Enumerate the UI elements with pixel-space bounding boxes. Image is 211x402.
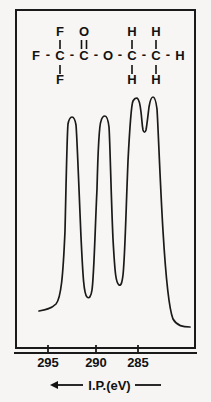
atom-c-carbonyl: C xyxy=(79,48,89,63)
xps-spectrum-figure: F - C - C - O - C - C - H F O H H F H H xyxy=(0,0,211,402)
atom-h-ch3-bottom: H xyxy=(151,72,160,87)
atom-h-right: H xyxy=(175,48,184,63)
structure-top-substituents: F O H H xyxy=(56,24,161,39)
x-axis-tick-label-285: 285 xyxy=(121,355,155,370)
atom-c-ch2: C xyxy=(127,48,137,63)
x-axis-tick-label-295: 295 xyxy=(31,355,65,370)
atom-c-ch3: C xyxy=(151,48,161,63)
x-axis-ticks xyxy=(48,345,138,352)
x-axis-title: I.P.(eV) xyxy=(84,378,134,393)
molecular-structure-diagram: F - C - C - O - C - C - H F O H H F H H xyxy=(15,9,196,99)
left-arrow-icon xyxy=(50,378,84,392)
structure-bottom-substituents: F H H xyxy=(56,72,161,87)
bond-dash-6: - xyxy=(166,47,170,62)
structure-backbone: F - C - C - O - C - C - H xyxy=(32,47,185,63)
bond-dash-4: - xyxy=(118,47,122,62)
x-axis-title-row: I.P.(eV) xyxy=(0,375,211,395)
atom-h-ch3-top: H xyxy=(151,24,160,39)
atom-f-top: F xyxy=(56,24,64,39)
bond-dash-1: - xyxy=(46,47,50,62)
bond-dash-2: - xyxy=(70,47,74,62)
atom-h-ch2-bottom: H xyxy=(127,72,136,87)
atom-f-bottom: F xyxy=(56,72,64,87)
right-rule-icon xyxy=(135,378,161,392)
atom-o-ester: O xyxy=(103,48,113,63)
x-axis-tick-label-290: 290 xyxy=(79,355,113,370)
bond-dash-3: - xyxy=(94,47,98,62)
spectrum-curve xyxy=(39,97,190,327)
atom-o-carbonyl: O xyxy=(79,24,89,39)
atom-f-left: F xyxy=(32,48,40,63)
bond-dash-5: - xyxy=(142,47,146,62)
atom-c-cf3: C xyxy=(55,48,65,63)
atom-h-ch2-top: H xyxy=(127,24,136,39)
